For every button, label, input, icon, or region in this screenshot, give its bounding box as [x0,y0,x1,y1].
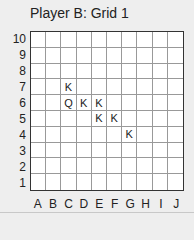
grid-cell-H7[interactable] [137,79,152,95]
grid-cell-J6[interactable] [168,95,183,111]
grid-cell-E8[interactable] [92,64,107,80]
grid-cell-H1[interactable] [137,174,152,190]
grid-cell-B2[interactable] [46,158,61,174]
grid-cell-F1[interactable] [107,174,122,190]
grid-cell-B9[interactable] [46,48,61,64]
grid-cell-E7[interactable] [92,79,107,95]
grid-cell-B5[interactable] [46,111,61,127]
grid-cell-B10[interactable] [46,32,61,48]
grid-cell-B4[interactable] [46,127,61,143]
grid-cell-D5[interactable] [77,111,92,127]
grid-cell-E10[interactable] [92,32,107,48]
grid-cell-G7[interactable] [122,79,137,95]
grid-cell-E4[interactable] [92,127,107,143]
grid-cell-I9[interactable] [153,48,168,64]
grid-cell-G4[interactable]: K [122,127,137,143]
grid-cell-D4[interactable] [77,127,92,143]
grid-cell-C1[interactable] [61,174,76,190]
grid-cell-D10[interactable] [77,32,92,48]
grid-cell-C7[interactable]: K [61,79,76,95]
grid-cell-J2[interactable] [168,158,183,174]
grid-cell-C9[interactable] [61,48,76,64]
grid-cell-A10[interactable] [31,32,46,48]
grid-cell-B7[interactable] [46,79,61,95]
grid-cell-E2[interactable] [92,158,107,174]
grid-cell-H3[interactable] [137,143,152,159]
grid-cell-E5[interactable]: K [92,111,107,127]
grid-cell-C4[interactable] [61,127,76,143]
grid-cell-C3[interactable] [61,143,76,159]
grid-cell-E3[interactable] [92,143,107,159]
grid-cell-J4[interactable] [168,127,183,143]
grid-cell-A2[interactable] [31,158,46,174]
grid-cell-G5[interactable] [122,111,137,127]
grid-cell-D7[interactable] [77,79,92,95]
grid-cell-I4[interactable] [153,127,168,143]
grid-cell-D8[interactable] [77,64,92,80]
grid-cell-A7[interactable] [31,79,46,95]
grid-cell-D1[interactable] [77,174,92,190]
grid-cell-I2[interactable] [153,158,168,174]
grid-cell-F8[interactable] [107,64,122,80]
grid-cell-G8[interactable] [122,64,137,80]
grid-cell-J10[interactable] [168,32,183,48]
grid-cell-A1[interactable] [31,174,46,190]
grid-cell-J8[interactable] [168,64,183,80]
grid-cell-B1[interactable] [46,174,61,190]
grid-cell-G10[interactable] [122,32,137,48]
grid-cell-F9[interactable] [107,48,122,64]
grid-cell-A8[interactable] [31,64,46,80]
grid-cell-C6[interactable]: Q [61,95,76,111]
grid-cell-C2[interactable] [61,158,76,174]
grid-cell-J3[interactable] [168,143,183,159]
grid-cell-G6[interactable] [122,95,137,111]
grid-cell-I5[interactable] [153,111,168,127]
grid-cell-E9[interactable] [92,48,107,64]
grid-cell-G1[interactable] [122,174,137,190]
grid-cell-C10[interactable] [61,32,76,48]
grid-cell-C5[interactable] [61,111,76,127]
grid-cell-H2[interactable] [137,158,152,174]
grid-cell-I10[interactable] [153,32,168,48]
grid-cell-B8[interactable] [46,64,61,80]
grid-cell-F5[interactable]: K [107,111,122,127]
grid-cell-I8[interactable] [153,64,168,80]
grid-cell-D3[interactable] [77,143,92,159]
grid-cell-I7[interactable] [153,79,168,95]
grid-cell-I3[interactable] [153,143,168,159]
grid-cell-A6[interactable] [31,95,46,111]
grid-cell-A9[interactable] [31,48,46,64]
grid-cell-H4[interactable] [137,127,152,143]
grid-cell-D9[interactable] [77,48,92,64]
grid-cell-J9[interactable] [168,48,183,64]
grid-cell-G3[interactable] [122,143,137,159]
grid-cell-F7[interactable] [107,79,122,95]
grid-cell-F6[interactable] [107,95,122,111]
grid-cell-J1[interactable] [168,174,183,190]
grid-cell-G9[interactable] [122,48,137,64]
grid-cell-D2[interactable] [77,158,92,174]
grid-cell-H8[interactable] [137,64,152,80]
grid-cell-E1[interactable] [92,174,107,190]
grid-cell-H6[interactable] [137,95,152,111]
grid-cell-J7[interactable] [168,79,183,95]
grid-cell-A3[interactable] [31,143,46,159]
grid-cell-F2[interactable] [107,158,122,174]
grid-cell-E6[interactable]: K [92,95,107,111]
grid-cell-B3[interactable] [46,143,61,159]
grid-cell-G2[interactable] [122,158,137,174]
grid-cell-A5[interactable] [31,111,46,127]
grid-cell-B6[interactable] [46,95,61,111]
grid-cell-H10[interactable] [137,32,152,48]
grid-cell-J5[interactable] [168,111,183,127]
grid-cell-C8[interactable] [61,64,76,80]
grid-cell-D6[interactable]: K [77,95,92,111]
grid-cell-A4[interactable] [31,127,46,143]
grid-cell-F10[interactable] [107,32,122,48]
grid-cell-H5[interactable] [137,111,152,127]
grid-cell-I1[interactable] [153,174,168,190]
grid-cell-I6[interactable] [153,95,168,111]
grid-cell-F4[interactable] [107,127,122,143]
grid-cell-F3[interactable] [107,143,122,159]
grid-cell-H9[interactable] [137,48,152,64]
